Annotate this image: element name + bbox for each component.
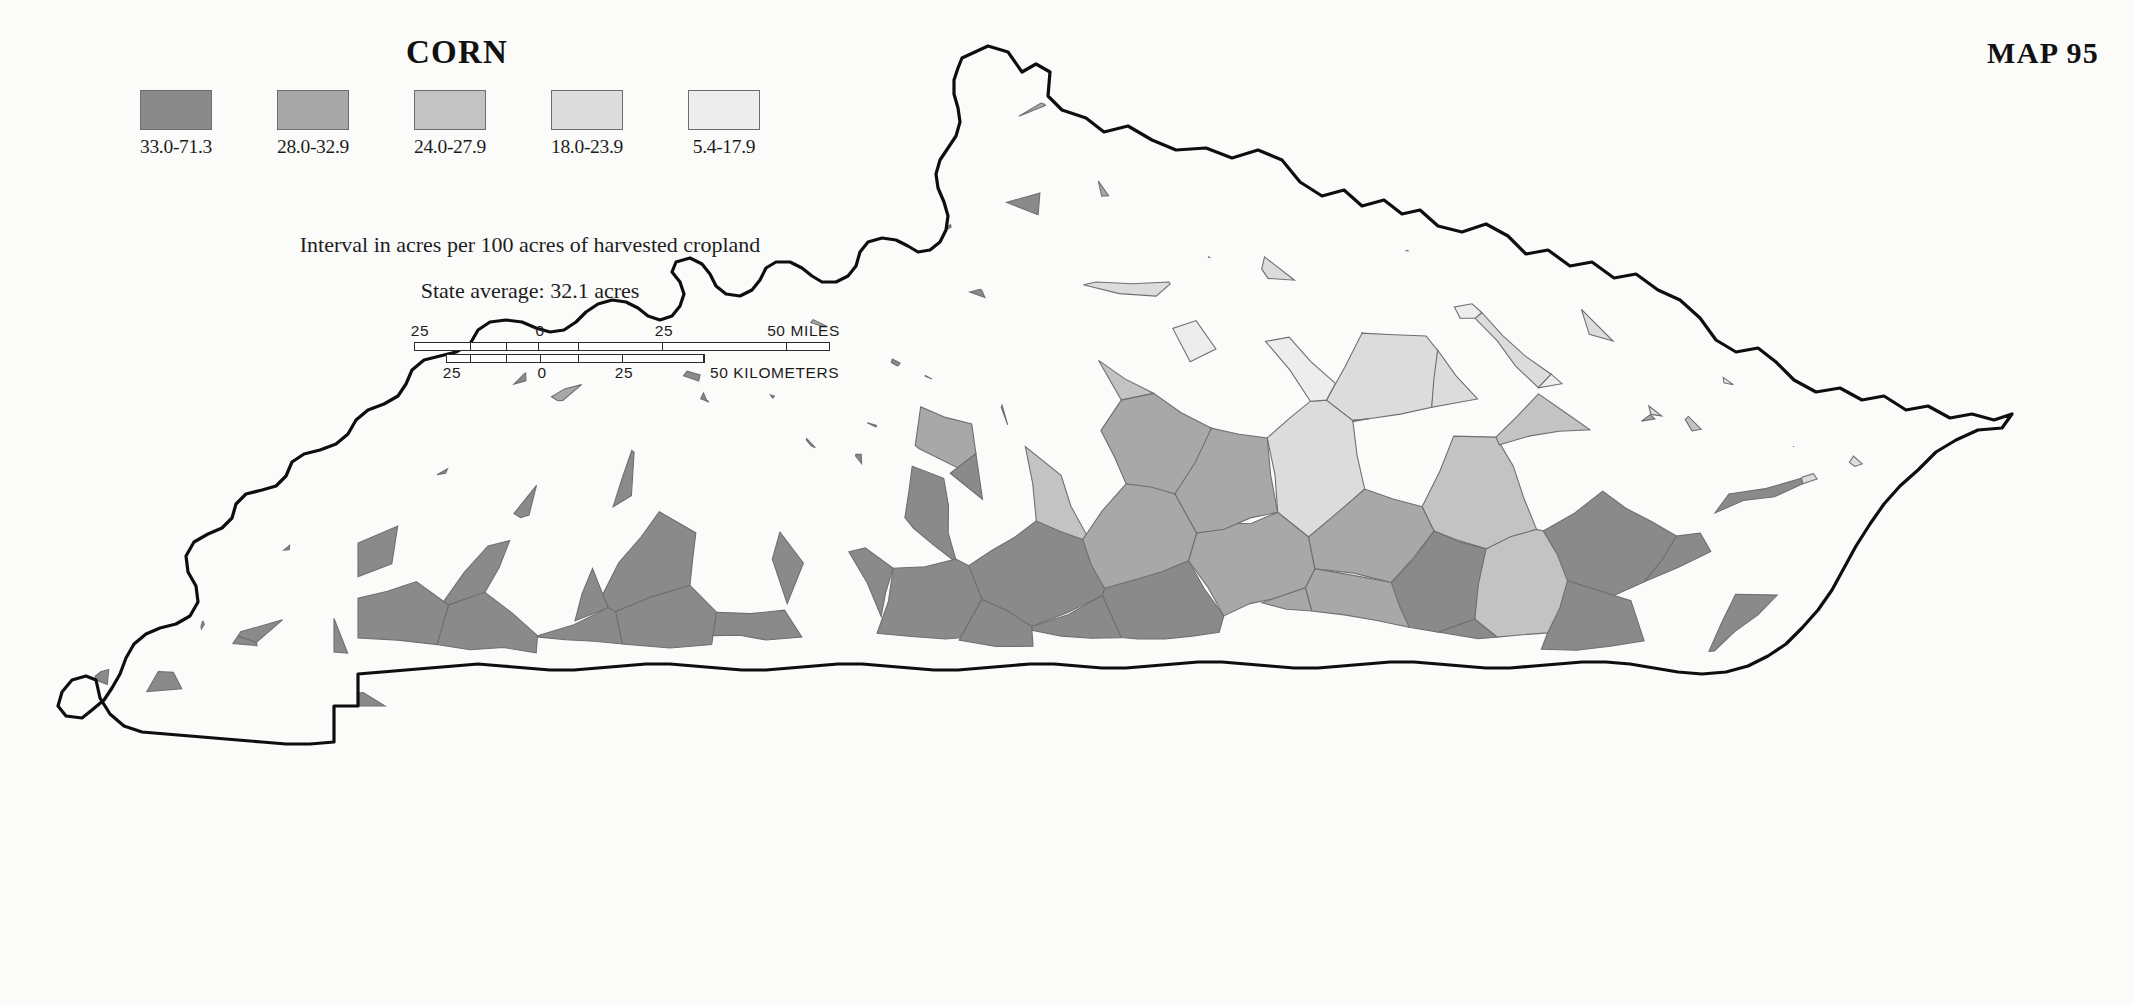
county-area — [1496, 394, 1590, 445]
scale-tick — [578, 354, 579, 363]
county-area — [1007, 193, 1040, 215]
county-area — [1454, 304, 1481, 319]
scale-tick — [578, 342, 579, 351]
county-area — [514, 485, 537, 517]
county-area — [891, 359, 900, 366]
legend-item-2: 28.0-32.9 — [267, 90, 359, 158]
county-area — [1715, 478, 1803, 513]
county-area — [1262, 257, 1295, 280]
county-area — [358, 582, 449, 645]
scale-label-km-0: 0 — [537, 364, 546, 382]
county-area — [915, 407, 976, 468]
scale-tick — [540, 354, 541, 363]
county-area — [867, 423, 876, 427]
scale-bar-kilometers — [446, 354, 704, 363]
legend-item-4: 18.0-23.9 — [541, 90, 633, 158]
legend-interval-note: Interval in acres per 100 acres of harve… — [0, 232, 1060, 258]
county-area — [437, 469, 447, 475]
scale-tick — [506, 354, 507, 363]
county-area — [771, 395, 775, 398]
legend-item-5: 5.4-17.9 — [678, 90, 770, 158]
county-area — [806, 439, 815, 448]
legend: 33.0-71.328.0-32.924.0-27.918.0-23.95.4-… — [130, 90, 790, 162]
scale-label-miles-0: 0 — [535, 322, 544, 340]
legend-swatch-1 — [140, 90, 212, 130]
scale-label-miles-25: 25 — [655, 322, 673, 340]
scale-bar: 2502550 MILES2502550 KILOMETERS — [410, 318, 850, 382]
legend-item-3: 24.0-27.9 — [404, 90, 496, 158]
county-area — [284, 545, 290, 550]
county-area — [1685, 416, 1701, 431]
county-area — [1432, 350, 1478, 407]
legend-state-average-note: State average: 32.1 acres — [0, 278, 1060, 304]
county-area — [1019, 103, 1046, 116]
county-area — [1641, 415, 1655, 421]
legend-swatch-3 — [414, 90, 486, 130]
county-area — [856, 454, 862, 463]
county-area — [1723, 377, 1733, 384]
county-area — [1099, 360, 1154, 400]
scale-label-miles-25-left: 25 — [411, 322, 429, 340]
county-area — [1406, 250, 1409, 251]
scale-tick — [662, 342, 663, 351]
county-area — [334, 619, 348, 654]
scale-tick — [414, 342, 415, 351]
county-area — [551, 385, 581, 401]
county-area — [1475, 313, 1551, 388]
county-area — [1649, 406, 1662, 416]
county-area — [1208, 257, 1209, 258]
county-area — [1709, 594, 1777, 651]
scale-tick — [470, 342, 471, 351]
scale-label-km-unit: 50 KILOMETERS — [710, 364, 839, 382]
county-area — [358, 526, 398, 577]
scale-label-km-25: 25 — [615, 364, 633, 382]
map-number-label: MAP 95 — [1987, 36, 2099, 70]
scale-label-miles-unit: 50 MILES — [767, 322, 840, 340]
county-area — [1327, 333, 1438, 420]
county-area — [905, 466, 956, 559]
legend-label-4: 18.0-23.9 — [541, 136, 633, 158]
scale-tick — [470, 354, 471, 363]
scale-tick — [622, 354, 623, 363]
county-area — [1362, 333, 1363, 334]
county-area — [1001, 405, 1008, 425]
county-area — [613, 451, 634, 507]
county-area — [701, 393, 707, 401]
county-area — [772, 532, 803, 603]
map-page: CORN MAP 95 33.0-71.328.0-32.924.0-27.91… — [0, 0, 2133, 1005]
scale-bar-miles — [414, 342, 830, 351]
county-area — [1802, 474, 1818, 484]
county-area — [1083, 282, 1170, 296]
scale-tick — [446, 354, 447, 363]
scale-tick — [786, 342, 787, 351]
county-area — [925, 376, 932, 379]
county-area — [201, 621, 204, 629]
legend-swatch-4 — [551, 90, 623, 130]
county-area — [1098, 181, 1108, 196]
legend-label-5: 5.4-17.9 — [678, 136, 770, 158]
legend-label-1: 33.0-71.3 — [130, 136, 222, 158]
legend-swatch-2 — [277, 90, 349, 130]
legend-label-2: 28.0-32.9 — [267, 136, 359, 158]
county-area — [713, 610, 802, 640]
county-area — [1266, 337, 1336, 401]
county-area — [1173, 321, 1216, 362]
legend-swatch-5 — [688, 90, 760, 130]
scale-tick — [506, 342, 507, 351]
county-area — [1581, 309, 1613, 341]
scale-label-km-25-left: 25 — [443, 364, 461, 382]
county-area — [358, 693, 385, 706]
county-area — [147, 672, 182, 692]
legend-item-1: 33.0-71.3 — [130, 90, 222, 158]
county-area — [1422, 436, 1537, 549]
page-title: CORN — [406, 34, 508, 71]
county-area — [1849, 456, 1862, 466]
legend-label-3: 24.0-27.9 — [404, 136, 496, 158]
scale-tick — [704, 354, 705, 363]
scale-tick — [538, 342, 539, 351]
